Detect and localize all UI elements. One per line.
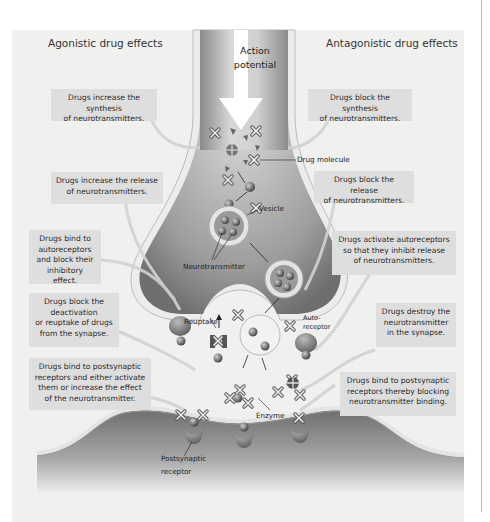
label-enzyme: Enzyme: [256, 411, 285, 420]
label-autoreceptor: Auto- receptor: [303, 314, 330, 332]
antagonistic-box-autoreceptors: Drugs activate autoreceptors so that the…: [332, 231, 456, 275]
box-line: neurotransmitter: [381, 318, 451, 329]
antagonistic-box-postsynaptic: Drugs bind to postsynaptic receptors the…: [340, 372, 456, 416]
box-line: Drugs increase the release: [56, 176, 158, 187]
box-line: them or increase the effect: [34, 383, 146, 394]
box-line: Drugs block the synthesis: [313, 93, 407, 114]
agonistic-box-reuptake: Drugs block the deactivation or reuptake…: [29, 293, 119, 347]
label-neurotransmitter: Neurotransmitter: [183, 262, 245, 271]
antagonistic-box-release: Drugs block the release of neurotransmit…: [314, 171, 414, 203]
box-line: of neurotransmitters.: [56, 187, 158, 198]
box-line: Drugs bind to: [34, 234, 96, 245]
agonistic-box-postsynaptic: Drugs bind to postsynaptic receptors and…: [29, 358, 151, 410]
box-line: neurotransmitter binding.: [345, 397, 451, 408]
box-line: deactivation: [34, 308, 114, 319]
agonistic-box-synthesis: Drugs increase the synthesis of neurotra…: [51, 89, 157, 121]
box-line: inhibitory effect.: [34, 266, 96, 287]
antagonistic-box-destroy: Drugs destroy the neurotransmitter in th…: [376, 303, 456, 347]
antagonistic-heading: Antagonistic drug effects: [326, 37, 458, 49]
box-line: Drugs block the release: [319, 175, 409, 196]
box-line: of neurotransmitters.: [313, 114, 407, 125]
box-line: Drugs bind to postsynaptic: [34, 362, 146, 373]
agonistic-box-release: Drugs increase the release of neurotrans…: [51, 172, 163, 204]
label-line: Auto-: [303, 314, 330, 323]
label-line: receptor: [161, 467, 206, 476]
agonistic-heading: Agonistic drug effects: [48, 37, 163, 49]
box-line: Drugs destroy the: [381, 307, 451, 318]
label-drug-molecule: Drug molecule: [297, 155, 350, 164]
box-line: of the neurotransmitter.: [34, 394, 146, 405]
antagonistic-box-synthesis: Drugs block the synthesis of neurotransm…: [308, 89, 412, 121]
box-line: in the synapse.: [381, 328, 451, 339]
action-potential-line2: potential: [225, 58, 285, 72]
box-line: so that they inhibit release: [337, 246, 451, 257]
agonistic-box-autoreceptors: Drugs bind to autoreceptors and block th…: [29, 230, 101, 284]
box-line: of neurotransmitters.: [319, 196, 409, 207]
box-line: Drugs activate autoreceptors: [337, 235, 451, 246]
label-line: Postsynaptic: [161, 454, 206, 463]
label-vesicle: Vesicle: [259, 204, 284, 213]
box-line: receptors thereby blocking: [345, 387, 451, 398]
box-line: Drugs bind to postsynaptic: [345, 376, 451, 387]
box-line: from the synapse.: [34, 329, 114, 340]
label-postsynaptic-receptor: Postsynaptic receptor: [161, 454, 206, 476]
label-line: receptor: [303, 323, 330, 332]
box-line: Drugs increase the synthesis: [56, 93, 152, 114]
action-potential-line1: Action: [225, 44, 285, 58]
action-potential-label: Action potential: [225, 44, 285, 72]
box-line: receptors and either activate: [34, 373, 146, 384]
label-reuptake: Reuptake: [184, 317, 218, 326]
box-line: autoreceptors: [34, 245, 96, 256]
box-line: or reuptake of drugs: [34, 318, 114, 329]
box-line: of neurotransmitters.: [56, 114, 152, 125]
box-line: Drugs block the: [34, 297, 114, 308]
box-line: of neurotransmitters.: [337, 256, 451, 267]
box-line: and block their: [34, 255, 96, 266]
